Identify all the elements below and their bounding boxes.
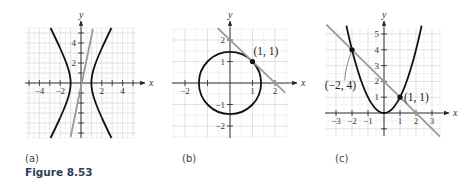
figure-canvas: xy −4−22424 xy −212−2−112 (1, 1) xy −3−2… (0, 0, 472, 183)
svg-text:−1: −1 (215, 100, 225, 110)
panel-label-b: (b) (182, 153, 196, 164)
annotation-leader-line (345, 53, 351, 81)
axes: xy (325, 9, 458, 136)
point-marker (349, 47, 354, 52)
svg-text:−2: −2 (180, 86, 190, 96)
svg-text:x: x (300, 77, 306, 88)
svg-text:x: x (148, 77, 154, 88)
panel-label-c: (c) (335, 153, 348, 164)
svg-text:2: 2 (273, 86, 278, 96)
point-marker (397, 95, 402, 100)
svg-text:x: x (452, 107, 458, 118)
svg-text:−2: −2 (55, 86, 65, 96)
svg-text:4: 4 (120, 86, 125, 96)
svg-text:1: 1 (375, 92, 380, 102)
svg-text:2: 2 (414, 116, 419, 126)
svg-text:−1: −1 (363, 116, 373, 126)
figure-caption: Figure 8.53 (25, 166, 93, 178)
svg-text:−2: −2 (347, 116, 357, 126)
chart-panel-c: xy −3−2−112312345 (−2, 4) (1, 1) (325, 9, 458, 137)
svg-text:4: 4 (72, 38, 77, 48)
svg-text:1: 1 (398, 116, 403, 126)
svg-text:y: y (227, 9, 233, 20)
point-annotation: (−2, 4) (325, 79, 357, 92)
svg-text:−4: −4 (35, 86, 45, 96)
svg-text:1: 1 (221, 57, 226, 67)
svg-text:1: 1 (250, 86, 255, 96)
svg-text:4: 4 (375, 45, 380, 55)
svg-text:3: 3 (430, 116, 435, 126)
svg-text:3: 3 (375, 61, 380, 71)
point-annotation: (1, 1) (254, 45, 279, 58)
svg-text:y: y (78, 9, 84, 20)
panel-label-a: (a) (25, 153, 39, 164)
chart-panel-a: xy −4−22424 (25, 9, 154, 138)
svg-text:2: 2 (72, 58, 77, 68)
svg-text:y: y (381, 9, 387, 20)
svg-text:5: 5 (375, 29, 380, 39)
svg-text:2: 2 (375, 76, 380, 86)
chart-panel-b: xy −212−2−112 (1, 1) (172, 9, 306, 138)
svg-text:2: 2 (100, 86, 105, 96)
svg-text:−2: −2 (215, 121, 225, 131)
svg-text:2: 2 (221, 35, 226, 45)
point-marker (250, 59, 255, 64)
point-annotation: (1, 1) (404, 91, 429, 104)
svg-text:−3: −3 (331, 116, 341, 126)
